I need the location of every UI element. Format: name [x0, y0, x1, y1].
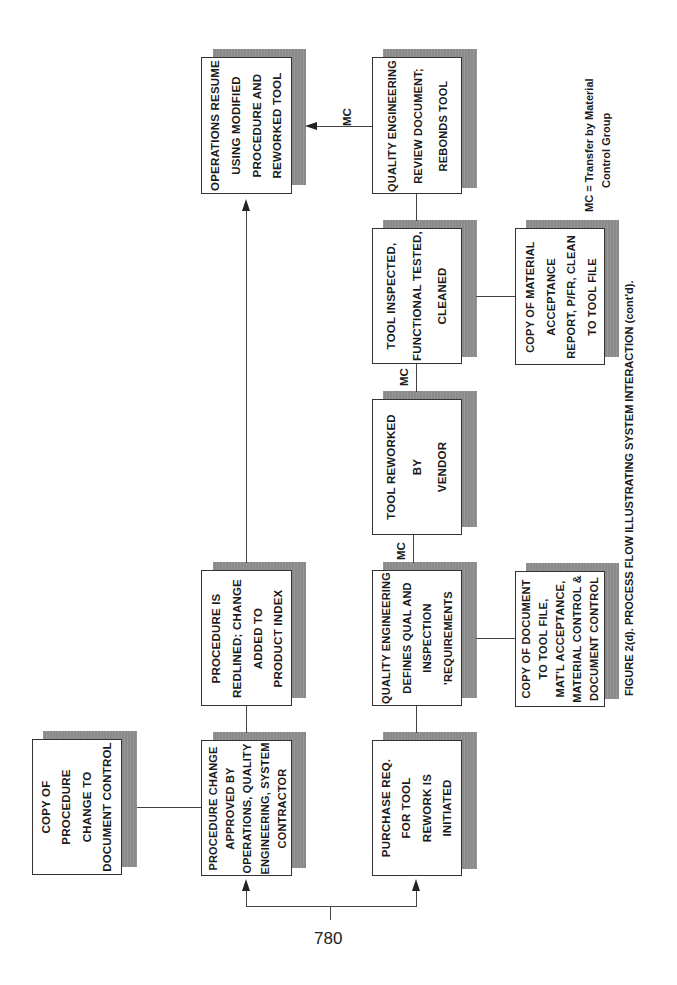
box-text-line: VENDOR	[436, 442, 449, 492]
box-text-line: TO TOOL FILE,	[537, 599, 549, 680]
box-text-line: REPORT, P/FR, CLEAN	[564, 235, 576, 359]
connector-line	[476, 296, 515, 297]
box-text-line: REVIEW DOCUMENT;	[411, 68, 423, 184]
box-face: COPY OF MATERIAL ACCEPTANCE REPORT, P/FR…	[515, 228, 605, 365]
box-text-line: TO TOOL FILE	[585, 258, 597, 336]
box-text-line: REWORK IS	[421, 774, 434, 842]
mc-label: MC	[341, 108, 353, 126]
box-text-line: FOR TOOL	[400, 778, 413, 839]
box-text-line: CLEANED	[436, 268, 449, 325]
legend-line-1: MC = Transfer by Material	[583, 78, 595, 212]
arrow-head-icon	[412, 879, 420, 891]
connector-line	[416, 890, 417, 907]
box-text-line: ADDED TO	[251, 607, 264, 668]
box-face: COPY OF DOCUMENT TO TOOL FILE, MAT'L ACC…	[515, 571, 605, 707]
box-text-line: QUALITY ENGINEERING	[380, 572, 392, 704]
box-text-line: COPY OF DOCUMENT	[520, 579, 532, 698]
box-text-line: MAT'L ACCEPTANCE,	[554, 581, 566, 698]
arrow-head-icon	[242, 199, 250, 211]
connector-line	[137, 807, 201, 808]
connector-line	[246, 206, 247, 563]
connector-line	[416, 194, 417, 221]
box-text-line: 'REQUIREMENTS	[442, 591, 454, 685]
box-text-line: PROCEDURE AND	[251, 74, 264, 178]
connector-line	[246, 890, 247, 907]
box-text-line: OPERATIONS RESUME	[209, 60, 222, 191]
connector-line	[246, 706, 247, 733]
box-text-line: USING MODIFIED	[230, 76, 243, 175]
box-text-line: PROCEDURE IS	[209, 593, 222, 683]
mc-label: MC	[395, 542, 407, 560]
box-face: PROCEDURE CHANGE APPROVED BY OPERATIONS,…	[201, 740, 292, 876]
connector-line	[416, 364, 417, 392]
box-text-line: PROCEDURE	[60, 769, 73, 844]
mc-label: MC	[398, 368, 410, 386]
box-text-line: COPY OF	[40, 781, 53, 834]
box-text-line: INSPECTION	[421, 603, 433, 672]
box-text-line: REDLINED; CHANGE	[230, 579, 243, 698]
box-text-line: TOOL REWORKED	[385, 414, 398, 520]
box-text-line: DOCUMENT CONTROL	[588, 577, 600, 701]
box-face: PURCHASE REQ. FOR TOOL REWORK IS INITIAT…	[372, 740, 462, 876]
connector-line	[476, 638, 515, 639]
box-text-line: PURCHASE REQ.	[380, 759, 393, 857]
box-face: TOOL REWORKED BY VENDOR	[372, 399, 462, 535]
figure-caption: FIGURE 2(d). PROCESS FLOW ILLUSTRATING S…	[623, 280, 635, 696]
box-text-line: TOOL INSPECTED,	[385, 243, 398, 350]
box-text-line: ENGINEERING, SYSTEM	[258, 742, 270, 874]
connector-line	[312, 126, 372, 127]
box-text-line: DOCUMENT CONTROL	[101, 742, 114, 872]
box-text-line: ACCEPTANCE	[544, 258, 556, 336]
box-text-line: PRODUCT INDEX	[271, 589, 284, 687]
box-text-line: CONTRACTOR	[275, 768, 287, 848]
box-text-line: FUNCTIONAL TESTED,	[411, 231, 424, 361]
box-text-line: OPERATIONS, QUALITY	[240, 743, 252, 873]
box-text-line: REBONDS TOOL	[436, 80, 448, 171]
connector-line	[246, 906, 417, 907]
box-face: COPY OF PROCEDURE CHANGE TO DOCUMENT CON…	[32, 739, 122, 875]
box-face: TOOL INSPECTED, FUNCTIONAL TESTED, CLEAN…	[372, 228, 462, 364]
box-face: OPERATIONS RESUME USING MODIFIED PROCEDU…	[201, 57, 292, 194]
connector-line	[416, 706, 417, 733]
box-text-line: CHANGE TO	[81, 772, 94, 843]
box-text-line: INITIATED	[441, 779, 454, 836]
legend-line-2: Control Group	[600, 113, 612, 188]
connector-line	[330, 906, 331, 920]
arrow-head-icon	[305, 122, 317, 130]
box-text-line: PROCEDURE CHANGE	[206, 746, 218, 870]
box-text-line: REWORKED TOOL	[271, 73, 284, 179]
box-text-line: APPROVED BY	[223, 767, 235, 849]
page-number: 780	[314, 929, 342, 949]
arrow-head-icon	[242, 879, 250, 891]
box-text-line: DEFINES QUAL AND	[401, 582, 413, 693]
box-face: QUALITY ENGINEERING DEFINES QUAL AND INS…	[372, 570, 462, 706]
connector-line	[413, 535, 414, 563]
box-face: PROCEDURE IS REDLINED; CHANGE ADDED TO P…	[201, 570, 292, 706]
box-text-line: COPY OF MATERIAL	[523, 241, 535, 353]
box-text-line: BY	[411, 459, 424, 475]
box-text-line: QUALITY ENGINEERING	[385, 60, 397, 192]
box-face: QUALITY ENGINEERING REVIEW DOCUMENT; REB…	[372, 57, 462, 194]
box-text-line: MATERIAL CONTROL &	[571, 575, 583, 703]
